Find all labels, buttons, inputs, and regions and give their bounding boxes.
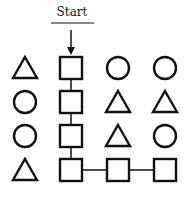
triangle-shape-r1-c1 [13, 57, 37, 78]
triangle-shape-r2-c4 [153, 91, 177, 112]
circle-shape-r3-c4 [154, 125, 176, 147]
square-shape-r4-c2 [60, 159, 82, 181]
square-shape-r4-c4 [154, 159, 176, 181]
circle-shape-r2-c1 [14, 91, 36, 113]
shape-grid-diagram [0, 0, 189, 197]
square-shape-r1-c2 [60, 57, 82, 79]
triangle-shape-r3-c3 [106, 125, 130, 146]
triangle-shape-r2-c3 [106, 91, 130, 112]
triangle-shape-r4-c1 [13, 159, 37, 180]
start-arrow-head [67, 47, 75, 55]
square-shape-r4-c3 [107, 159, 129, 181]
circle-shape-r1-c4 [154, 57, 176, 79]
square-shape-r2-c2 [60, 91, 82, 113]
circle-shape-r3-c1 [14, 125, 36, 147]
square-shape-r3-c2 [60, 125, 82, 147]
circle-shape-r1-c3 [107, 57, 129, 79]
